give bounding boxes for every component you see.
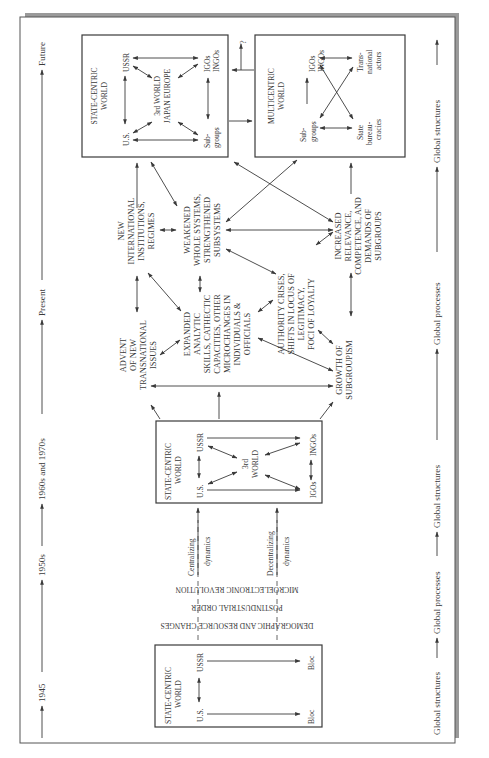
svg-text:NEW: NEW — [117, 221, 126, 240]
global-processes-2: Global processes — [432, 282, 442, 345]
svg-text:SUBSYSTEMS: SUBSYSTEMS — [213, 203, 222, 257]
svg-text:GROWTH OF: GROWTH OF — [335, 345, 344, 395]
svg-text:COMPETENCE, AND: COMPETENCE, AND — [354, 197, 363, 275]
svg-text:FOCI OF LOYALTY: FOCI OF LOYALTY — [307, 278, 316, 350]
global-structures-3: Global structures — [432, 100, 442, 163]
page-shadow-top — [25, 13, 459, 17]
svg-text:CAPACITIES, OTHER: CAPACITIES, OTHER — [213, 294, 222, 374]
svg-text:REGIMES: REGIMES — [147, 212, 156, 249]
timeline-1950s: 1950s — [37, 554, 47, 576]
box-1945-title: STATE-CENTRIC — [164, 667, 173, 724]
node-japan-europe-future: JAPAN EUROPE — [163, 68, 172, 123]
node-ingos-future: INGOs — [212, 50, 221, 72]
timeline-1945: 1945 — [37, 683, 47, 702]
box-1960s-title-2: WORLD — [174, 456, 183, 484]
page-shadow-right — [455, 13, 459, 738]
label-decentralizing: Decentralizing — [266, 531, 275, 576]
global-processes-1: Global processes — [432, 571, 442, 634]
box-1960s-state-centric: STATE-CENTRIC WORLD U.S. USSR 3rd WORLD … — [156, 421, 322, 503]
timeline-future: Future — [37, 42, 47, 66]
svg-text:SHIFTS IN LOCUS OF: SHIFTS IN LOCUS OF — [287, 273, 296, 355]
node-bloc-ussr: Bloc — [307, 655, 316, 670]
svg-text:SUBGROUPISM: SUBGROUPISM — [345, 340, 354, 400]
node-state-bureaucracies-3: cracies — [374, 119, 383, 140]
svg-text:STRENGTHENED: STRENGTHENED — [203, 197, 212, 263]
label-centralizing-dynamics: dynamics — [203, 537, 212, 566]
node-transnational-actors: Trans- — [356, 52, 365, 72]
svg-text:SUBGROUPS: SUBGROUPS — [374, 211, 383, 261]
diagram-page: 1945 1950s 1960s and 1970s Present Futur… — [0, 0, 489, 758]
node-ussr-1960s: USSR — [196, 432, 205, 452]
box-multicentric-title: MULTICENTRIC — [267, 68, 276, 124]
svg-text:RELEVANCE,: RELEVANCE, — [344, 211, 353, 262]
box-future-state-title: STATE-CENTRIC — [90, 67, 99, 124]
node-bloc-us: Bloc — [307, 709, 316, 724]
node-transnational-actors-3: actors — [374, 52, 383, 70]
svg-text:INCREASED: INCREASED — [334, 213, 343, 260]
svg-text:INTERNATIONAL: INTERNATIONAL — [127, 198, 136, 265]
svg-text:ANALYTIC: ANALYTIC — [193, 313, 202, 355]
svg-text:TRANSNATIONAL: TRANSNATIONAL — [139, 320, 148, 390]
svg-text:OFFICIALS: OFFICIALS — [243, 312, 252, 355]
box-future-state-title-2: WORLD — [100, 82, 109, 110]
node-subgroups-future: Sub- — [203, 133, 212, 148]
node-subgroups-future-2: groups — [212, 127, 221, 148]
label-decentralizing-dynamics: dynamics — [282, 537, 291, 566]
svg-text:INDIVIDUALS &: INDIVIDUALS & — [233, 302, 242, 366]
box-future-state-centric: STATE-CENTRIC WORLD U.S. USSR 3rd WORLD … — [82, 35, 228, 157]
node-ussr-1945: USSR — [196, 652, 205, 672]
svg-text:MICROCHANGES IN: MICROCHANGES IN — [223, 295, 232, 373]
node-igos-multi: IGOs — [308, 56, 317, 72]
node-igos-future: IGOs — [203, 56, 212, 72]
svg-text:INSTITUTIONS,: INSTITUTIONS, — [137, 201, 146, 260]
driver-postindustrial: POSTINDUSTRIAL ORDER — [190, 603, 282, 612]
node-subgroups-multi: Sub- — [299, 127, 308, 142]
node-us-future: U.S. — [122, 132, 131, 146]
global-structures-1: Global structures — [432, 672, 442, 735]
diagram-canvas: 1945 1950s 1960s and 1970s Present Futur… — [0, 0, 489, 758]
node-transnational-actors-2: national — [365, 50, 374, 74]
node-3rd-world-future: 3rd WORLD — [153, 76, 162, 116]
box-1945-title-2: WORLD — [174, 680, 183, 708]
svg-text:ADVENT: ADVENT — [119, 338, 128, 372]
svg-text:OF NEW: OF NEW — [129, 339, 138, 371]
node-growth: GROWTH OF SUBGROUPISM — [335, 340, 354, 400]
global-structures-2: Global structures — [432, 465, 442, 528]
driver-demographic: DEMOGRAPHIC AND RESOURCE CHANGES — [161, 621, 314, 630]
node-3rd-world-1960s: 3rd — [241, 459, 250, 469]
node-state-bureaucracies: State — [356, 124, 365, 140]
node-ingos-multi: INGOs — [317, 50, 326, 72]
timeline-present: Present — [37, 289, 47, 316]
node-ingos-1960s: INGOs — [309, 434, 318, 456]
node-us-1960s: U.S. — [196, 484, 205, 498]
node-subgroups-multi-2: groups — [309, 121, 318, 142]
label-centralizing: Centralizing — [187, 538, 196, 576]
box-1945-state-centric: STATE-CENTRIC WORLD U.S. USSR Bloc Bloc — [155, 645, 322, 727]
driver-microelectronic: MICROELECTRONIC REVOLUTION — [175, 585, 298, 594]
svg-text:SKILLS, CATHECTIC: SKILLS, CATHECTIC — [203, 294, 212, 373]
svg-text:DEMANDS OF: DEMANDS OF — [364, 209, 373, 264]
node-igos-1960s: IGOs — [309, 482, 318, 498]
svg-text:WEAKENED: WEAKENED — [183, 206, 192, 253]
box-multicentric-title-2: WORLD — [277, 82, 286, 110]
svg-text:ISSUES: ISSUES — [149, 341, 158, 369]
box-future-multicentric: MULTICENTRIC WORLD IGOs INGOs Trans- nat… — [255, 35, 405, 157]
node-state-bureaucracies-2: bureau- — [365, 121, 374, 145]
svg-text:WHOLE SYSTEMS,: WHOLE SYSTEMS, — [193, 194, 202, 266]
node-ussr-future: USSR — [122, 52, 131, 72]
node-3rd-world-1960s-2: WORLD — [251, 450, 260, 478]
question-mark: ? — [239, 40, 248, 44]
svg-text:AUTHORITY CRISES,: AUTHORITY CRISES, — [277, 273, 286, 354]
node-us-1945: U.S. — [196, 708, 205, 722]
box-1960s-title: STATE-CENTRIC — [164, 443, 173, 500]
timeline-1960s-1970s: 1960s and 1970s — [37, 438, 47, 500]
svg-text:EXPANDED: EXPANDED — [183, 312, 192, 356]
svg-text:LEGITIMACY,: LEGITIMACY, — [297, 287, 306, 340]
